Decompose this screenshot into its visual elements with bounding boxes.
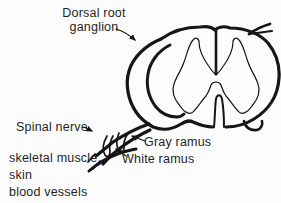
label-dorsal-root-ganglion: Dorsal root ganglion xyxy=(58,6,130,34)
ventral-median-fissure xyxy=(214,95,224,127)
dorsal-root-ganglion-inner-edge xyxy=(147,45,184,117)
spinal-cord-diagram: Dorsal root ganglion Spinal nerve Gray r… xyxy=(0,0,281,203)
label-target-blood-vessels: blood vessels xyxy=(9,185,87,199)
label-spinal-nerve: Spinal nerve xyxy=(16,120,88,134)
label-white-ramus: White ramus xyxy=(122,152,194,166)
label-gray-ramus: Gray ramus xyxy=(144,135,211,149)
label-target-skin: skin xyxy=(9,168,32,182)
label-dorsal-root-ganglion-line2: ganglion xyxy=(58,20,130,34)
label-target-skeletal-muscle: skeletal muscle xyxy=(9,151,97,165)
diagram-canvas xyxy=(0,0,281,203)
label-dorsal-root-ganglion-line1: Dorsal root xyxy=(58,6,130,20)
spinal-cord-outline xyxy=(161,27,279,127)
